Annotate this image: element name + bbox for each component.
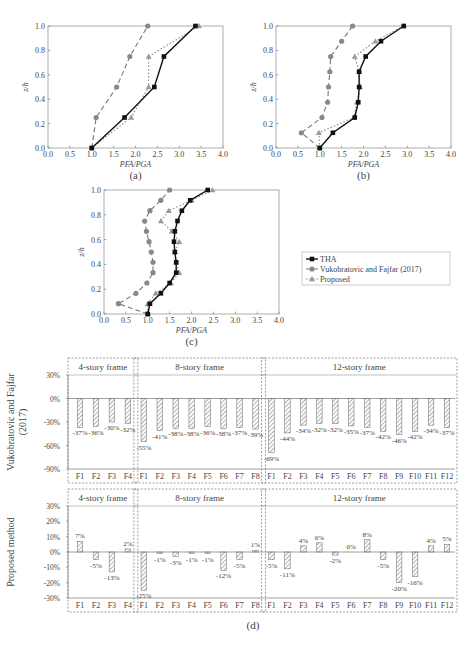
y-tick-label: 0.2 bbox=[91, 285, 101, 294]
data-point-marker bbox=[167, 187, 172, 192]
x-tick-label: F11 bbox=[425, 601, 437, 610]
x-tick-label: 3.5 bbox=[424, 150, 434, 159]
series-line bbox=[92, 26, 196, 148]
bar bbox=[189, 399, 195, 429]
data-point-marker bbox=[167, 281, 172, 286]
bar bbox=[396, 552, 402, 583]
y-tick-label: 0.4 bbox=[91, 260, 101, 269]
bar bbox=[444, 544, 450, 552]
y-tick-label: 1.0 bbox=[91, 186, 101, 195]
y-tick-label: -60% bbox=[44, 442, 60, 451]
y-tick-label: 0% bbox=[50, 395, 60, 404]
frame-group-title: 8-story frame bbox=[175, 362, 224, 372]
data-point-marker bbox=[356, 100, 361, 105]
data-point-marker bbox=[352, 54, 358, 59]
bar bbox=[333, 552, 339, 555]
x-tick-label: F4 bbox=[315, 601, 323, 610]
x-tick-label: 3.5 bbox=[196, 150, 206, 159]
x-tick-label: 1.0 bbox=[87, 150, 97, 159]
data-point-marker bbox=[328, 54, 333, 59]
bar-value-label: -41% bbox=[152, 433, 167, 441]
x-tick-label: 3.5 bbox=[252, 316, 262, 325]
x-tick-label: F8 bbox=[251, 601, 259, 610]
frame-group-box bbox=[262, 489, 458, 612]
bar-value-label: -5% bbox=[234, 562, 246, 570]
bar-value-label: -37% bbox=[72, 429, 87, 437]
legend: THAVukobratovic and Fajfar (2017)Propose… bbox=[302, 252, 450, 285]
data-point-marker bbox=[357, 85, 362, 90]
x-tick-label: F6 bbox=[347, 472, 355, 481]
bar-value-label: -36% bbox=[200, 429, 215, 437]
x-tick-label: F5 bbox=[203, 601, 211, 610]
bar bbox=[317, 399, 323, 424]
y-tick-label: 0.2 bbox=[35, 120, 45, 129]
data-point-marker bbox=[145, 23, 150, 28]
x-tick-label: F6 bbox=[219, 601, 227, 610]
bar bbox=[93, 399, 99, 427]
data-point-marker bbox=[363, 54, 368, 59]
bar-value-label: -2% bbox=[329, 557, 341, 565]
data-point-marker bbox=[127, 54, 132, 59]
bar-value-label: -38% bbox=[184, 430, 199, 438]
bar-value-label: -36% bbox=[88, 429, 103, 437]
data-point-marker bbox=[158, 218, 164, 223]
y-tick-label: 0.4 bbox=[263, 95, 273, 104]
bar bbox=[380, 552, 386, 560]
y-tick-label: 20% bbox=[46, 517, 60, 526]
bar-value-label: -5% bbox=[266, 562, 278, 570]
y-tick-label: -20% bbox=[44, 579, 60, 588]
bar bbox=[285, 552, 291, 569]
x-tick-label: 2.5 bbox=[152, 150, 162, 159]
bar bbox=[173, 552, 179, 557]
bar-value-label: -32% bbox=[312, 426, 327, 434]
bar-value-label: -42% bbox=[376, 433, 391, 441]
x-tick-label: F12 bbox=[441, 472, 453, 481]
data-point-marker bbox=[331, 130, 336, 135]
bar-value-label: -44% bbox=[280, 435, 295, 443]
legend-marker bbox=[310, 257, 315, 262]
y-axis-title: z/h bbox=[21, 82, 30, 92]
x-tick-label: F1 bbox=[140, 601, 148, 610]
data-point-marker bbox=[147, 208, 152, 213]
bar-value-label: -32% bbox=[328, 426, 343, 434]
x-tick-label: 2.5 bbox=[208, 316, 218, 325]
x-tick-label: F8 bbox=[251, 472, 259, 481]
data-point-marker bbox=[357, 69, 362, 74]
x-tick-label: F5 bbox=[331, 601, 339, 610]
chart-b: 0.00.51.01.52.02.53.03.54.00.00.20.40.60… bbox=[249, 22, 456, 182]
series-line bbox=[92, 26, 148, 148]
x-tick-label: F7 bbox=[235, 601, 243, 610]
plot-frame bbox=[104, 190, 279, 314]
data-point-marker bbox=[193, 24, 198, 29]
y-tick-label: 0.6 bbox=[91, 236, 101, 245]
data-point-marker bbox=[146, 239, 151, 244]
y-tick-label: 1.0 bbox=[35, 22, 45, 31]
bar-value-label: -20% bbox=[392, 585, 407, 593]
data-point-marker bbox=[133, 291, 138, 296]
frame-group-title: 4-story frame bbox=[79, 493, 128, 503]
data-point-marker bbox=[176, 239, 182, 244]
x-tick-label: 1.5 bbox=[337, 150, 347, 159]
x-tick-label: F4 bbox=[315, 472, 323, 481]
data-point-marker bbox=[299, 130, 304, 135]
y-tick-label: 10% bbox=[46, 533, 60, 542]
data-point-marker bbox=[162, 54, 167, 59]
legend-marker bbox=[309, 266, 314, 271]
bar-value-label: -42% bbox=[408, 433, 423, 441]
data-point-marker bbox=[142, 218, 147, 223]
bar-value-label: -37% bbox=[360, 429, 375, 437]
bar bbox=[301, 399, 307, 426]
x-tick-label: 1.0 bbox=[143, 316, 153, 325]
frame-group-box bbox=[134, 489, 266, 612]
bar bbox=[444, 399, 450, 428]
x-tick-label: F3 bbox=[299, 472, 307, 481]
data-point-marker bbox=[94, 115, 99, 120]
x-tick-label: F1 bbox=[267, 601, 275, 610]
data-point-marker bbox=[150, 260, 155, 265]
x-tick-label: F2 bbox=[156, 472, 164, 481]
bar bbox=[364, 540, 370, 552]
bar bbox=[93, 552, 99, 560]
frame-group-title: 4-story frame bbox=[79, 362, 128, 372]
x-axis-title: PFA/PGA bbox=[119, 160, 152, 169]
bar-value-label: -32% bbox=[120, 426, 135, 434]
